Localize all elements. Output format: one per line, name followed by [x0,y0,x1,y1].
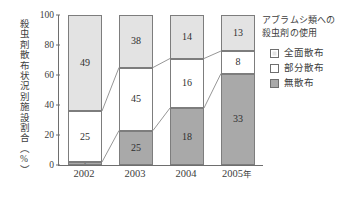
legend-swatch-icon [270,79,279,88]
bar-segment[interactable]: 18 [170,108,204,165]
y-axis-tickmark [56,75,60,76]
bar-segment-value: 38 [131,36,141,46]
bar-segment-value: 18 [182,132,192,142]
y-axis-ticklabel: 60 [28,70,54,80]
bar-segment[interactable]: 25 [119,131,153,166]
bar-segment[interactable]: 14 [170,15,204,59]
bar-2004[interactable]: 141618 [170,15,204,165]
legend-title: アブラムシ類への 殺虫剤の使用 [262,14,352,40]
bar-segment[interactable]: 13 [221,15,255,51]
bar-segment-value: 45 [131,94,141,104]
legend-swatch-icon [270,49,279,58]
bar-segment[interactable]: 49 [68,15,102,111]
legend-item[interactable]: 部分散布 [270,61,352,75]
y-axis-tickmark [56,45,60,46]
y-axis-ticklabel: 100 [28,10,54,20]
bar-segment-value: 49 [80,58,90,68]
bar-segment-value: 25 [80,132,90,142]
bar-segment-value: 13 [233,28,243,38]
y-axis-ticklabel: 40 [28,100,54,110]
legend-items: 全面散布部分散布無散布 [262,46,352,90]
y-axis-ticklabel: 80 [28,40,54,50]
x-axis-ticklabel: 2004 [158,168,214,180]
legend-item-label: 部分散布 [284,63,324,73]
x-axis-ticklabel: 2002 [56,168,112,180]
bar-segment-value: 8 [236,57,241,67]
bar-segment-value: 16 [182,78,192,88]
y-axis-ticklabel: 0 [28,160,54,170]
y-axis-tickmark [56,15,60,16]
legend-item[interactable]: 無散布 [270,76,352,90]
bar-segment[interactable]: 38 [119,15,153,68]
y-axis-ticklabels: 100806040200 [28,15,54,165]
bar-segment[interactable]: 16 [170,59,204,109]
legend-item-label: 全面散布 [284,48,324,58]
x-axis-tick-year: 2004 [176,168,197,179]
bar-2002[interactable]: 49252 [68,15,102,165]
chart-figure: 殺虫剤散布状況別施設割合（%） 100806040200 49252384525… [0,0,353,206]
x-axis-ticklabel: 2003 [107,168,163,180]
bar-segment-value: 2 [83,162,87,165]
legend: アブラムシ類への 殺虫剤の使用 全面散布部分散布無散布 [262,14,352,91]
bar-segment[interactable]: 2 [68,162,102,165]
x-axis-tick-unit: 年 [243,169,252,179]
bar-segment[interactable]: 45 [119,68,153,131]
y-axis-tickmark [56,105,60,106]
legend-title-line1: アブラムシ類への [262,15,336,25]
bar-segment[interactable]: 25 [68,111,102,162]
bar-segment-value: 14 [182,32,192,42]
x-axis-ticklabel: 2005年 [209,168,265,180]
legend-item[interactable]: 全面散布 [270,46,352,60]
bar-2003[interactable]: 384525 [119,15,153,165]
legend-swatch-icon [270,64,279,73]
legend-title-line2: 殺虫剤の使用 [262,27,352,40]
y-axis-ticklabel: 20 [28,130,54,140]
x-axis-tick-year: 2005 [222,168,243,179]
plot-area: 4925238452514161813833 [58,15,263,166]
y-axis-tickmark [56,165,60,166]
legend-item-label: 無散布 [284,78,314,88]
bar-segment[interactable]: 8 [221,51,255,74]
bar-segment-value: 33 [233,114,243,124]
x-axis-ticklabels: 2002200320042005年 [58,168,262,186]
bar-segment-value: 25 [131,143,141,153]
y-axis-tickmark [56,135,60,136]
bars-container: 4925238452514161813833 [59,15,263,165]
x-axis-tick-year: 2002 [74,168,95,179]
bar-2005年[interactable]: 13833 [221,15,255,165]
bar-segment[interactable]: 33 [221,74,255,166]
x-axis-tick-year: 2003 [125,168,146,179]
y-axis-title: 殺虫剤散布状況別施設割合（%） [4,8,30,186]
